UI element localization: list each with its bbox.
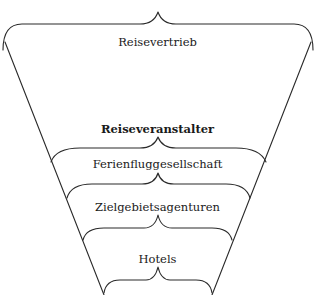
level-label-hotels: Hotels [0, 252, 315, 266]
brace-3-icon [67, 173, 250, 198]
level-label-zielgebietsagenturen: Zielgebietsagenturen [0, 200, 315, 214]
level-label-reisevertrieb: Reisevertrieb [0, 35, 315, 49]
funnel-diagram: Reisevertrieb Reiseveranstalter Ferienfl… [0, 0, 315, 295]
brace-5-icon [104, 267, 212, 293]
brace-4-icon [83, 215, 232, 240]
level-label-reiseveranstalter: Reiseveranstalter [0, 122, 315, 136]
level-label-ferienfluggesellschaft: Ferienfluggesellschaft [0, 157, 315, 171]
